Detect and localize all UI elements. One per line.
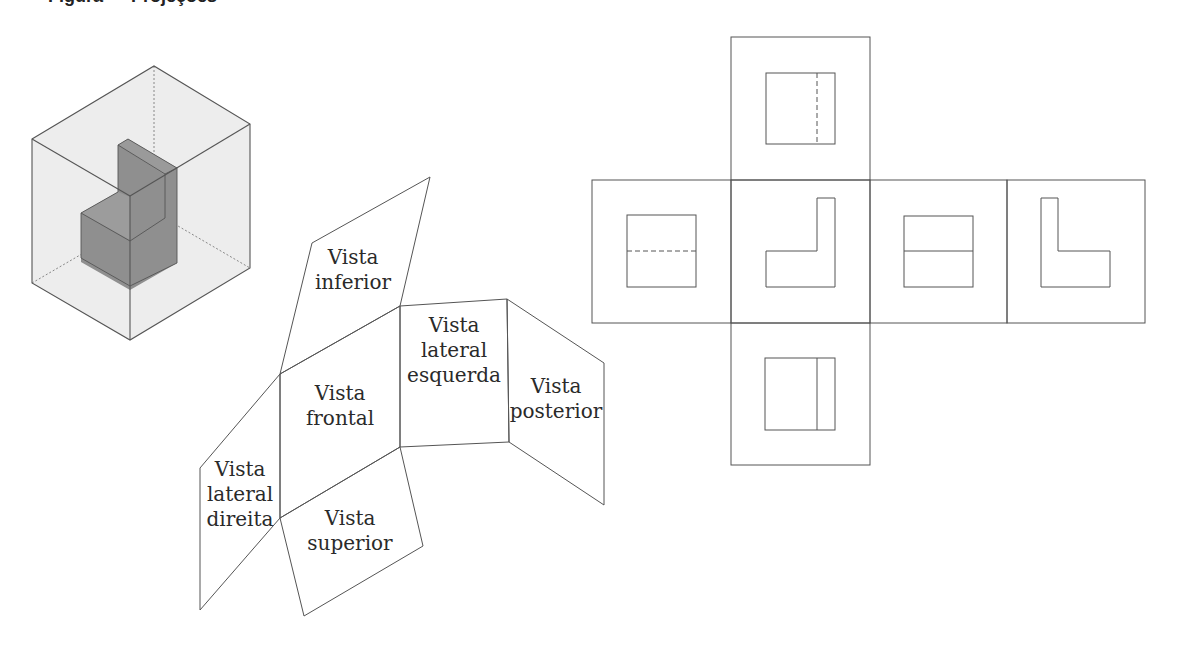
cell-top: [731, 37, 870, 180]
diagram-canvas: [0, 0, 1181, 646]
cell-bottom: [731, 323, 870, 465]
label-vista-lateral-direita: Vista lateral direita: [201, 457, 279, 532]
label-vista-lateral-esquerda: Vista lateral esquerda: [402, 313, 506, 388]
isometric-box: [32, 66, 250, 340]
label-vista-superior: Vista superior: [298, 506, 402, 556]
label-vista-frontal: Vista frontal: [290, 381, 390, 431]
label-vista-posterior: Vista posterior: [508, 374, 604, 424]
orthographic-layout: [592, 37, 1145, 465]
label-vista-inferior: Vista inferior: [308, 245, 398, 295]
